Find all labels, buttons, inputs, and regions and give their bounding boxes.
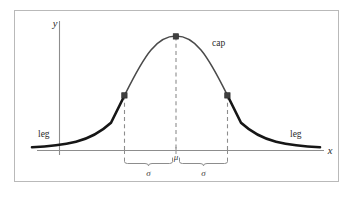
mu-label: μ <box>173 152 179 162</box>
y-axis-label: y <box>52 18 58 29</box>
marker-peak-point <box>173 34 178 39</box>
brace-right-sigma <box>180 158 228 166</box>
marker-left-inflection-point <box>122 93 127 98</box>
brace-left-sigma <box>125 158 173 166</box>
sigma-label-right: σ <box>201 168 206 178</box>
leg-label-left: leg <box>38 129 50 139</box>
curve-left-leg <box>32 96 125 148</box>
marker-right-inflection-point <box>225 93 230 98</box>
normal-distribution-plot: y x cap leg leg μ σ σ <box>0 0 356 197</box>
curve-right-leg <box>228 96 321 148</box>
sigma-label-left: σ <box>146 168 151 178</box>
x-axis-label: x <box>327 145 333 156</box>
figure-root: y x cap leg leg μ σ σ <box>0 0 356 197</box>
cap-label: cap <box>212 38 225 48</box>
leg-label-right: leg <box>290 129 302 139</box>
